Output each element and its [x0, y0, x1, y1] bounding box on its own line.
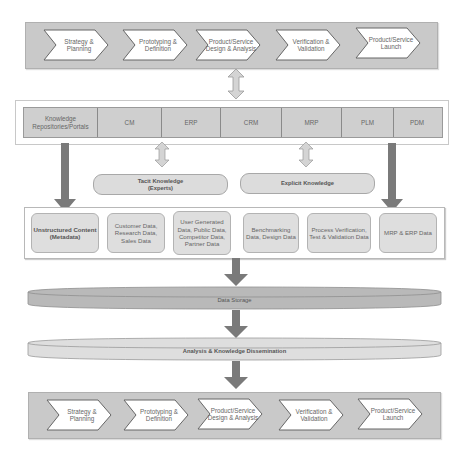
bottom-step-design[interactable]: Product/Service Design & Analysis	[197, 398, 263, 430]
tacit-knowledge-label: Tacit Knowledge (Experts)	[131, 178, 191, 192]
double-arrow-icon	[227, 68, 245, 100]
step-label: Strategy & Planning	[56, 399, 108, 431]
data-box-benchmarking[interactable]: Benchmarking Data, Design Data	[243, 213, 299, 253]
step-label: Verification & Validation	[288, 399, 340, 431]
data-box-mrp-erp[interactable]: MRP & ERP Data	[379, 213, 437, 253]
step-label: Product/Service Launch	[367, 398, 419, 430]
step-label: Strategy & Planning	[53, 29, 105, 61]
down-arrow-left-icon	[53, 143, 77, 213]
step-label: Product/Service Design & Analysis	[205, 29, 257, 61]
repo-cell-crm[interactable]: CRM	[221, 108, 282, 137]
double-arrow-tacit-icon	[154, 141, 170, 168]
down-arrow-analysis-icon	[223, 310, 249, 339]
down-arrow-right-icon	[380, 143, 404, 213]
knowledge-repositories-panel: Knowledge Repositories/Portals CM ERP CR…	[15, 100, 449, 145]
step-label: Product/Service Launch	[365, 27, 417, 59]
top-step-strategy[interactable]: Strategy & Planning	[43, 29, 109, 61]
top-process-band: Strategy & Planning Prototyping & Defini…	[25, 22, 438, 69]
step-label: Verification & Validation	[285, 29, 337, 61]
analysis-dissemination-disk[interactable]: Analysis & Knowledge Dissemination	[26, 337, 443, 362]
repo-cell-cm[interactable]: CM	[98, 108, 162, 137]
data-box-user-generated[interactable]: User Generated Data, Public Data, Compet…	[173, 211, 231, 255]
double-arrow-explicit-icon	[298, 141, 314, 168]
data-sources-panel: Unstructured Content (Metadata) Customer…	[24, 207, 445, 259]
explicit-knowledge-pill[interactable]: Explicit Knowledge	[240, 173, 375, 194]
repo-cell-pdm[interactable]: PDM	[394, 108, 440, 137]
data-storage-label: Data Storage	[26, 297, 443, 303]
data-box-customer[interactable]: Customer Data, Research Data, Sales Data	[107, 213, 165, 253]
data-box-unstructured[interactable]: Unstructured Content (Metadata)	[31, 213, 99, 253]
down-arrow-bottom-process-icon	[223, 361, 249, 390]
data-box-process-verification[interactable]: Process Verification, Test & Validation …	[307, 213, 371, 253]
bottom-step-verification[interactable]: Verification & Validation	[278, 399, 344, 431]
bottom-step-strategy[interactable]: Strategy & Planning	[46, 399, 112, 431]
analysis-dissemination-label: Analysis & Knowledge Dissemination	[26, 348, 443, 354]
top-step-verification[interactable]: Verification & Validation	[275, 29, 341, 61]
bottom-process-band: Strategy & Planning Prototyping & Defini…	[28, 392, 441, 439]
down-arrow-storage-icon	[223, 258, 249, 287]
data-storage-disk[interactable]: Data Storage	[26, 286, 443, 311]
step-label: Prototyping & Definition	[133, 399, 185, 431]
top-step-launch[interactable]: Product/Service Launch	[355, 27, 421, 59]
repo-cell-plm[interactable]: PLM	[342, 108, 394, 137]
top-step-design[interactable]: Product/Service Design & Analysis	[195, 29, 261, 61]
repositories-row: Knowledge Repositories/Portals CM ERP CR…	[23, 107, 443, 138]
step-label: Product/Service Design & Analysis	[207, 398, 259, 430]
bottom-step-prototyping[interactable]: Prototyping & Definition	[123, 399, 189, 431]
repo-cell-portals[interactable]: Knowledge Repositories/Portals	[24, 108, 98, 137]
step-label: Prototyping & Definition	[132, 29, 184, 61]
repo-cell-mrp[interactable]: MRP	[282, 108, 342, 137]
explicit-knowledge-label: Explicit Knowledge	[281, 180, 334, 187]
top-step-prototyping[interactable]: Prototyping & Definition	[122, 29, 188, 61]
bottom-step-launch[interactable]: Product/Service Launch	[357, 398, 423, 430]
tacit-knowledge-pill[interactable]: Tacit Knowledge (Experts)	[93, 174, 228, 195]
repo-cell-erp[interactable]: ERP	[162, 108, 221, 137]
